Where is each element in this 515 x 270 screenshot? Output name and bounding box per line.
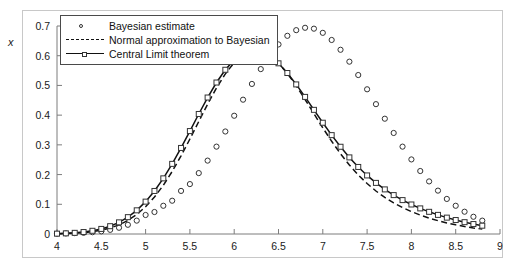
data-point-bayesian-estimate — [187, 181, 192, 186]
legend-item-bayesian-estimate: Bayesian estimate — [65, 19, 270, 33]
data-point-bayesian-estimate — [311, 26, 316, 31]
data-point-bayesian-estimate — [365, 87, 370, 92]
data-point-central-limit-theorem — [125, 215, 130, 220]
data-point-bayesian-estimate — [435, 188, 440, 193]
x-axis-tick-label: 6.5 — [271, 240, 286, 252]
data-point-bayesian-estimate — [302, 25, 307, 30]
data-point-central-limit-theorem — [356, 164, 361, 169]
x-axis-tick-label: 7.5 — [360, 240, 375, 252]
data-point-bayesian-estimate — [453, 203, 458, 208]
data-point-central-limit-theorem — [471, 222, 476, 227]
data-point-bayesian-estimate — [205, 158, 210, 163]
data-point-central-limit-theorem — [294, 82, 299, 87]
data-point-central-limit-theorem — [285, 71, 290, 76]
y-axis-tick-label: 0.3 — [35, 139, 50, 151]
x-axis-tick-label: 8 — [408, 240, 414, 252]
data-point-bayesian-estimate — [258, 66, 263, 71]
data-point-central-limit-theorem — [427, 209, 432, 214]
data-point-bayesian-estimate — [249, 81, 254, 86]
data-point-bayesian-estimate — [161, 203, 166, 208]
y-axis-tick-label: 0.1 — [35, 198, 50, 210]
data-point-central-limit-theorem — [453, 218, 458, 223]
data-point-central-limit-theorem — [117, 220, 122, 225]
y-axis-tick-label: 0 — [44, 228, 50, 240]
data-point-central-limit-theorem — [161, 176, 166, 181]
data-point-central-limit-theorem — [143, 199, 148, 204]
data-point-central-limit-theorem — [72, 230, 77, 235]
x-axis-tick-label: 5.5 — [183, 240, 198, 252]
data-point-central-limit-theorem — [196, 111, 201, 116]
data-point-bayesian-estimate — [347, 59, 352, 64]
data-point-central-limit-theorem — [205, 95, 210, 100]
y-axis-tick-label: 0.2 — [35, 169, 50, 181]
data-point-bayesian-estimate — [427, 179, 432, 184]
data-point-bayesian-estimate — [223, 129, 228, 134]
data-point-central-limit-theorem — [462, 220, 467, 225]
data-point-central-limit-theorem — [99, 226, 104, 231]
data-point-central-limit-theorem — [409, 202, 414, 207]
circle-marker-icon — [65, 19, 105, 33]
data-point-central-limit-theorem — [152, 188, 157, 193]
data-point-central-limit-theorem — [338, 144, 343, 149]
data-point-bayesian-estimate — [382, 116, 387, 121]
data-point-bayesian-estimate — [143, 212, 148, 217]
data-point-central-limit-theorem — [90, 228, 95, 233]
data-point-bayesian-estimate — [232, 113, 237, 118]
data-point-bayesian-estimate — [320, 30, 325, 35]
data-point-bayesian-estimate — [196, 170, 201, 175]
data-point-bayesian-estimate — [418, 168, 423, 173]
data-point-central-limit-theorem — [187, 129, 192, 134]
data-point-central-limit-theorem — [170, 161, 175, 166]
data-point-central-limit-theorem — [329, 133, 334, 138]
figure-container: x 00.10.20.30.40.50.60.744.555.566.577.5… — [0, 0, 515, 270]
y-axis-tick-label: 0.4 — [35, 109, 50, 121]
data-point-central-limit-theorem — [444, 215, 449, 220]
data-point-central-limit-theorem — [81, 230, 86, 235]
data-point-central-limit-theorem — [382, 187, 387, 192]
data-point-bayesian-estimate — [471, 214, 476, 219]
dashed-line-icon — [65, 33, 105, 47]
x-axis-tick-label: 4.5 — [94, 240, 109, 252]
data-point-bayesian-estimate — [391, 130, 396, 135]
legend-label: Normal approximation to Bayesian — [105, 34, 270, 46]
data-point-bayesian-estimate — [373, 102, 378, 107]
data-point-central-limit-theorem — [365, 173, 370, 178]
data-point-bayesian-estimate — [170, 198, 175, 203]
data-point-bayesian-estimate — [116, 225, 121, 230]
chart-legend: Bayesian estimate Normal approximation t… — [60, 15, 278, 65]
y-axis-tick-label: 0.5 — [35, 79, 50, 91]
data-point-bayesian-estimate — [444, 196, 449, 201]
y-axis-tick-label: 0.7 — [35, 20, 50, 32]
data-point-central-limit-theorem — [400, 198, 405, 203]
data-point-bayesian-estimate — [356, 72, 361, 77]
x-axis-tick-label: 5 — [143, 240, 149, 252]
data-point-central-limit-theorem — [223, 67, 228, 72]
legend-item-central-limit-theorem: Central Limit theorem — [65, 47, 270, 61]
legend-item-normal-approximation: Normal approximation to Bayesian — [65, 33, 270, 47]
x-axis-tick-label: 8.5 — [448, 240, 463, 252]
data-point-bayesian-estimate — [152, 209, 157, 214]
x-axis-tick-label: 9 — [497, 240, 503, 252]
data-point-central-limit-theorem — [418, 206, 423, 211]
data-point-bayesian-estimate — [480, 218, 485, 223]
data-point-central-limit-theorem — [303, 94, 308, 99]
data-point-central-limit-theorem — [134, 208, 139, 213]
legend-label: Bayesian estimate — [105, 20, 195, 32]
data-point-bayesian-estimate — [134, 218, 139, 223]
data-point-central-limit-theorem — [63, 231, 68, 236]
data-point-central-limit-theorem — [435, 212, 440, 217]
data-point-central-limit-theorem — [108, 224, 113, 229]
data-point-central-limit-theorem — [214, 80, 219, 85]
data-point-central-limit-theorem — [311, 107, 316, 112]
square-marker-line-icon — [65, 47, 105, 61]
data-point-central-limit-theorem — [179, 145, 184, 150]
y-axis-tick-label: 0.6 — [35, 50, 50, 62]
data-point-bayesian-estimate — [125, 222, 130, 227]
data-point-bayesian-estimate — [294, 28, 299, 33]
data-point-central-limit-theorem — [55, 231, 60, 236]
data-point-bayesian-estimate — [409, 157, 414, 162]
data-point-bayesian-estimate — [338, 47, 343, 52]
x-axis-tick-label: 4 — [54, 240, 60, 252]
data-point-bayesian-estimate — [285, 33, 290, 38]
data-point-bayesian-estimate — [400, 144, 405, 149]
